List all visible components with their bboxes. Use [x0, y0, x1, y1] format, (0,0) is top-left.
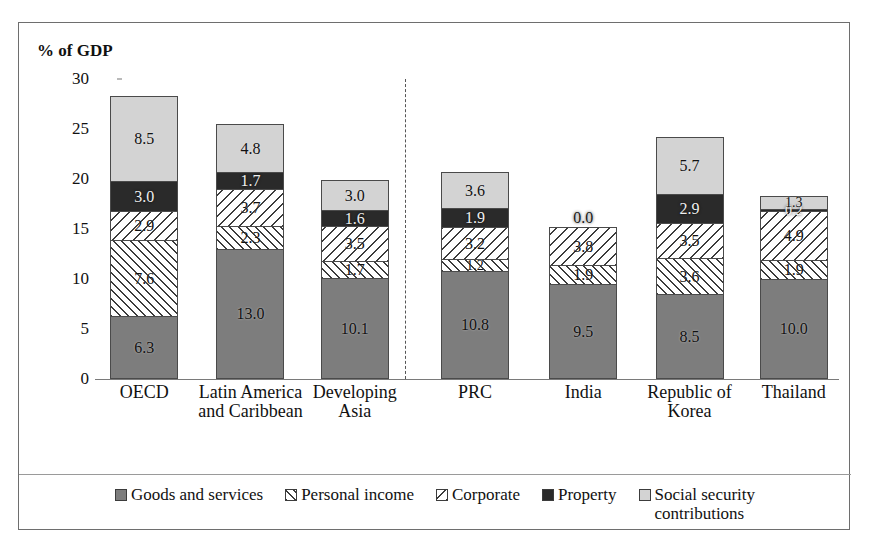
bar-segment[interactable]: 4.9	[760, 211, 828, 260]
bar-segment-value: 3.0	[134, 189, 154, 205]
bar-segment-value: 1.6	[345, 211, 365, 227]
bar-segment[interactable]: 3.7	[216, 189, 284, 226]
y-axis-tick-label: 15	[47, 219, 89, 239]
x-axis-labels: OECDLatin Americaand CaribbeanDeveloping…	[95, 383, 839, 447]
legend-label: Goods and services	[131, 485, 263, 504]
legend-row: Goods and servicesPersonal incomeCorpora…	[19, 485, 851, 523]
bar-segment-value: 3.5	[680, 233, 700, 249]
bar-group[interactable]: 9.51.93.80.00.0	[549, 227, 617, 379]
bar-segment[interactable]: 1.9	[760, 260, 828, 279]
bar-segment[interactable]: 3.0	[110, 181, 178, 211]
x-axis-label-line: Latin America	[197, 383, 303, 402]
bar-segment[interactable]: 8.5	[656, 294, 724, 379]
bar-segment-value: 1.3	[785, 196, 803, 210]
legend-item[interactable]: Corporate	[436, 485, 520, 504]
bar-segment[interactable]: 2.9	[110, 211, 178, 240]
bar-segment[interactable]: 5.7	[656, 137, 724, 194]
y-axis-tick-label: 5	[47, 319, 89, 339]
bar-segment-value: 2.9	[680, 201, 700, 217]
bar-segment[interactable]: 10.8	[441, 271, 509, 379]
bar-segment[interactable]: 10.1	[321, 278, 389, 379]
bar-segment[interactable]: 3.6	[656, 258, 724, 294]
bar-segment-value: 1.2	[466, 259, 484, 273]
bar-group[interactable]: 10.01.94.90.21.3	[760, 196, 828, 379]
y-axis: 051015202530	[47, 79, 95, 379]
bar-segment-value: 7.6	[134, 271, 154, 287]
legend-swatch-icon	[542, 489, 554, 501]
bar-segment[interactable]: 10.0	[760, 279, 828, 379]
bar-segment[interactable]: 1.2	[441, 259, 509, 271]
bar-segment-value: 3.2	[465, 236, 485, 252]
bar-segment-value: 3.6	[680, 269, 700, 285]
bar-segment-value: 13.0	[236, 306, 264, 322]
bar-group[interactable]: 10.11.73.51.63.0	[321, 180, 389, 379]
bar-segment[interactable]: 1.3	[760, 196, 828, 209]
bar-group[interactable]: 6.37.62.93.08.5	[110, 96, 178, 379]
bar-segment-value: 10.1	[341, 321, 369, 337]
legend-swatch-icon	[436, 489, 448, 501]
bars-container: 6.37.62.93.08.513.02.33.71.74.810.11.73.…	[95, 79, 839, 379]
x-axis-label: Thailand	[741, 383, 847, 402]
y-axis-tick-label: 20	[47, 169, 89, 189]
legend-item[interactable]: Property	[542, 485, 617, 504]
bar-segment-value: 4.8	[240, 141, 260, 157]
legend-item[interactable]: Goods and services	[115, 485, 263, 504]
bar-segment[interactable]: 1.6	[321, 210, 389, 226]
x-axis-label-line: India	[530, 383, 636, 402]
bar-segment[interactable]: 8.5	[110, 96, 178, 181]
bar-segment[interactable]: 1.9	[441, 208, 509, 227]
legend-item[interactable]: Social security contributions	[639, 485, 756, 523]
bar-segment[interactable]: 1.7	[321, 261, 389, 278]
bar-segment[interactable]: 7.6	[110, 240, 178, 316]
bar-segment[interactable]: 3.5	[656, 223, 724, 258]
bar-segment[interactable]: 6.3	[110, 316, 178, 379]
bar-segment[interactable]: 3.5	[321, 226, 389, 261]
bar-segment[interactable]: 1.9	[549, 265, 617, 284]
bar-group[interactable]: 8.53.63.52.95.7	[656, 137, 724, 379]
bar-segment[interactable]: 13.0	[216, 249, 284, 379]
bar-segment-value: 6.3	[134, 340, 154, 356]
bar-segment-value: 10.8	[461, 317, 489, 333]
y-axis-title: % of GDP	[37, 41, 113, 61]
x-axis-label-line: Thailand	[741, 383, 847, 402]
bar-segment-value: 3.5	[345, 236, 365, 252]
x-axis-line	[95, 379, 839, 380]
bar-segment[interactable]: 2.9	[656, 194, 724, 223]
x-axis-label: Republic ofKorea	[636, 383, 742, 422]
x-axis-label: Latin Americaand Caribbean	[197, 383, 303, 422]
legend-label: Property	[558, 485, 617, 504]
bar-segment-value: 2.3	[240, 230, 260, 246]
bar-segment-value: 9.5	[573, 324, 593, 340]
bar-segment-value: 1.9	[573, 267, 593, 283]
figure-frame: % of GDP 051015202530 6.37.62.93.08.513.…	[18, 22, 850, 530]
bar-segment[interactable]: 9.5	[549, 284, 617, 379]
x-axis-label-line: Asia	[302, 402, 408, 421]
bar-segment[interactable]: 4.8	[216, 124, 284, 172]
y-axis-tick-label: 30	[47, 69, 89, 89]
bar-segment-value: 3.7	[240, 200, 260, 216]
bar-segment[interactable]: 3.0	[321, 180, 389, 210]
bar-group[interactable]: 13.02.33.71.74.8	[216, 124, 284, 379]
bar-group[interactable]: 10.81.23.21.93.6	[441, 172, 509, 379]
bar-segment[interactable]: 1.7	[216, 172, 284, 189]
bar-segment[interactable]: 3.8	[549, 227, 617, 265]
bar-segment-value: 8.5	[680, 329, 700, 345]
bar-segment[interactable]: 2.3	[216, 226, 284, 249]
bar-segment-value: 3.0	[345, 188, 365, 204]
bar-segment-value: 4.9	[784, 228, 804, 244]
bar-segment[interactable]: 3.6	[441, 172, 509, 208]
legend-swatch-icon	[639, 489, 651, 501]
x-axis-label: India	[530, 383, 636, 402]
legend-item[interactable]: Personal income	[285, 485, 414, 504]
bar-segment-value: 3.8	[573, 239, 593, 255]
x-axis-label-line: Korea	[636, 402, 742, 421]
x-axis-label-line: PRC	[422, 383, 528, 402]
bar-segment-value: 1.7	[240, 173, 260, 189]
legend: Goods and servicesPersonal incomeCorpora…	[19, 474, 851, 523]
x-axis-label: DevelopingAsia	[302, 383, 408, 422]
bar-segment[interactable]: 3.2	[441, 227, 509, 259]
bar-segment-value: 8.5	[134, 131, 154, 147]
legend-label: Personal income	[301, 485, 414, 504]
legend-swatch-icon	[285, 489, 297, 501]
y-axis-tick-label: 25	[47, 119, 89, 139]
